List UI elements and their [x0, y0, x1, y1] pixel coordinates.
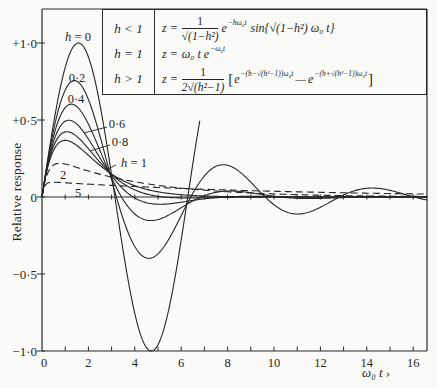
curve-label-value: = 0	[71, 30, 91, 44]
fraction-numerator: 1	[182, 15, 219, 29]
curve-h-5	[42, 182, 427, 197]
leader-line-0-6	[84, 127, 107, 133]
legend-condition-overdamped: h > 1	[103, 71, 154, 87]
legend-divider	[154, 10, 155, 94]
x-tick-label: 8	[224, 356, 230, 370]
legend-formula-critical: z = ω₀ t e−ω₀t	[162, 46, 225, 62]
curve-label-h-0-8: 0·8	[112, 136, 129, 149]
formula-exponent: −ω₀t	[210, 44, 225, 53]
y-tick-label: +0·5	[12, 113, 37, 128]
curve-label-h-0-2: 0·2	[69, 72, 86, 85]
bracket-close: ]	[368, 71, 373, 88]
arrow-icon: ›	[383, 365, 391, 380]
x-tick-label: 2	[85, 356, 91, 370]
formula-exponent-2: −(h+√(h²−1))ω₀t	[314, 69, 367, 78]
formula-lhs: z =	[162, 47, 178, 62]
formula-exp-base: e	[308, 72, 313, 87]
curve-label-h-1: h = 1	[121, 157, 147, 170]
legend-formula-underdamped: z = 1 √(1−h²) e−hω₀t sin{√(1−h²) ω₀ t}	[162, 12, 334, 44]
legend-condition-underdamped: h < 1	[103, 21, 154, 37]
curve-label-value: = 1	[127, 156, 147, 170]
fraction-numerator: 1	[182, 66, 224, 80]
legend-formula-overdamped: z = 1 2√(h²−1) [ e−(h−√(h²−1))ω₀t — e−(h…	[162, 64, 374, 94]
formula-legend: h < 1 z = 1 √(1−h²) e−hω₀t sin{√(1−h²) ω…	[102, 9, 427, 95]
x-tick-label: 16	[407, 356, 420, 370]
curve-label-h-5: 5	[75, 187, 81, 200]
x-axis-title: ω₀ t ›	[362, 365, 390, 381]
formula-fraction: 1 √(1−h²)	[182, 15, 219, 42]
curve-label-h-0: h = 0	[65, 31, 91, 44]
formula-exp-base: e	[234, 72, 239, 87]
fraction-denominator: √(1−h²)	[182, 29, 219, 42]
formula-sine-term: sin{√(1−h²) ω₀ t}	[251, 21, 335, 36]
curve-label-h-0-6: 0·6	[109, 118, 126, 131]
y-tick-label: +1·0	[12, 36, 37, 51]
curve-label-h-2: 2	[60, 169, 66, 182]
x-tick-label: 12	[314, 356, 327, 370]
curve-h-0-2	[42, 81, 427, 259]
formula-lhs: z =	[162, 72, 178, 87]
y-axis-title: Relative response	[9, 143, 25, 242]
formula-fraction: 1 2√(h²−1)	[182, 66, 224, 93]
x-tick-label: 10	[268, 356, 281, 370]
formula-expression: ω₀ t e	[182, 47, 209, 62]
x-tick-label: 0	[41, 356, 47, 370]
x-tick-label: 4	[132, 356, 139, 370]
y-tick-label: −0·5	[12, 267, 37, 282]
formula-minus: —	[295, 72, 306, 87]
formula-exp-base: e	[221, 21, 226, 36]
formula-exponent: −hω₀t	[228, 18, 247, 27]
formula-lhs: z =	[162, 21, 178, 36]
fraction-denominator: 2√(h²−1)	[182, 80, 224, 93]
formula-exponent-1: −(h−√(h²−1))ω₀t	[241, 69, 294, 78]
legend-condition-critical: h = 1	[103, 46, 154, 62]
x-axis-title-var: ω₀ t	[362, 365, 383, 380]
y-tick-label: 0	[31, 190, 38, 205]
curve-label-h-0-4: 0·4	[68, 93, 85, 106]
x-tick-label: 6	[178, 356, 184, 370]
y-tick-label: −1·0	[12, 344, 37, 359]
bracket-open: [	[228, 71, 233, 88]
